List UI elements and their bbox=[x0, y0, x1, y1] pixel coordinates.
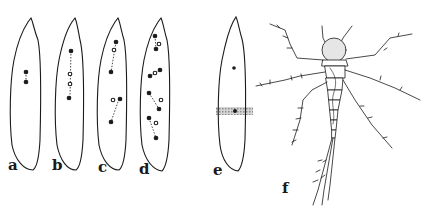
panel-c bbox=[97, 18, 126, 170]
panel-b bbox=[55, 18, 83, 170]
leaf-outline-c bbox=[97, 18, 126, 170]
leaf-outline-b bbox=[55, 18, 83, 170]
panel-label-f: f bbox=[282, 179, 290, 197]
panel-label-e: e bbox=[213, 161, 223, 179]
panel-label-a: a bbox=[8, 156, 18, 174]
figure-canvas: a b c bbox=[0, 0, 435, 210]
panel-f-insect bbox=[256, 24, 420, 205]
panel-label-d: d bbox=[139, 160, 150, 178]
panel-e bbox=[216, 17, 253, 171]
leaf-outline-d bbox=[140, 18, 169, 171]
leaf-outline-e bbox=[218, 17, 245, 171]
insect-head bbox=[322, 38, 346, 62]
leaf-outline-a bbox=[10, 18, 40, 170]
panel-a bbox=[10, 18, 40, 170]
panel-label-c: c bbox=[98, 158, 107, 176]
panel-label-b: b bbox=[52, 156, 63, 174]
panel-d bbox=[140, 18, 169, 171]
